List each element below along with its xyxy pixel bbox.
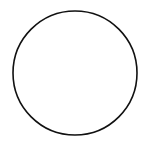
circle-graphic: [0, 0, 150, 148]
drawing-canvas: [0, 0, 150, 148]
circle-outline: [13, 11, 137, 135]
